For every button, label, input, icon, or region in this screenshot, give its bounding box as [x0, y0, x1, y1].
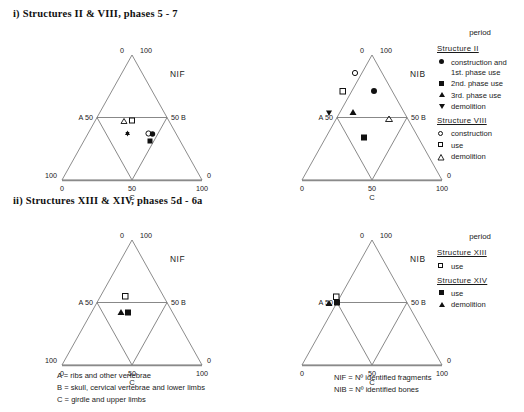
- caption-line: C = girdle and upper limbs: [57, 394, 205, 406]
- filled-triangle-up-icon: [437, 91, 451, 100]
- label-left-corner: 100: [45, 171, 57, 180]
- point-filled-square: [361, 135, 367, 141]
- caption-line: A = ribs and other vertebrae: [57, 370, 205, 382]
- label-apex-right: 100: [140, 46, 152, 55]
- label-left-mid: A 50: [319, 113, 333, 122]
- label-measure-nib: NIB: [410, 254, 425, 264]
- label-apex-left: 0: [360, 231, 364, 240]
- label-right-mid: 50 B: [411, 298, 426, 307]
- open-square-icon: [437, 141, 451, 150]
- label-right-mid: 50 B: [411, 113, 426, 122]
- legend-item: use: [437, 141, 523, 151]
- legend-item: construction and1st. phase use: [437, 58, 523, 78]
- filled-square-icon: [437, 289, 451, 298]
- label-right-corner: 0: [207, 171, 211, 180]
- point-open-square: [340, 89, 346, 95]
- label-measure-nif: NIF: [170, 254, 185, 264]
- point-filled-triangle-up: [125, 131, 130, 136]
- midline-left: [337, 118, 372, 181]
- legend-group-heading-structure-ii: Structure II: [437, 44, 523, 54]
- legend-item: demolition: [437, 300, 523, 310]
- label-bottom-right: 100: [196, 184, 208, 193]
- legend-panel-i: period Structure II construction and1st.…: [437, 28, 523, 164]
- panel-ii-title: ii) Structures XIII & XIV, phases 5d - 6…: [13, 195, 203, 206]
- point-filled-circle: [371, 88, 377, 94]
- midline-right: [132, 303, 167, 366]
- legend-label: demolition: [451, 300, 523, 310]
- label-left-mid: A 50: [79, 113, 93, 122]
- midline-right: [372, 303, 407, 366]
- label-left-corner: 100: [45, 356, 57, 365]
- legend-panel-ii: period Structure XIII use Structure XIV …: [437, 232, 523, 312]
- label-bottom-mid: 50: [368, 184, 376, 193]
- legend-label: construction: [451, 129, 523, 139]
- caption-left: A = ribs and other vertebrae B = skull, …: [57, 370, 205, 405]
- label-bottom-mid: 50: [128, 184, 136, 193]
- label-right-corner: 0: [447, 356, 451, 365]
- legend-label: 3rd. phase use: [451, 91, 523, 101]
- filled-triangle-up-icon: [437, 300, 451, 309]
- label-right-corner: 0: [447, 171, 451, 180]
- label-bottom-left: 0: [60, 184, 64, 193]
- open-circle-icon: [437, 129, 451, 138]
- label-apex-left: 0: [360, 46, 364, 55]
- data-points: [121, 118, 155, 144]
- caption-line: NIF = Nº identified fragments: [334, 372, 432, 384]
- legend-item: use: [437, 262, 523, 272]
- label-bottom-left: 0: [300, 184, 304, 193]
- legend-group-heading-structure-viii: Structure VIII: [437, 116, 523, 126]
- midline-left: [97, 118, 132, 181]
- legend-label: 2nd. phase use: [451, 79, 523, 89]
- filled-square-icon: [437, 79, 451, 88]
- caption-line: B = skull, cervical vertebrae and lower …: [57, 382, 205, 394]
- legend-label: construction and1st. phase use: [451, 58, 523, 78]
- caption-line: NIB = Nº identified bones: [334, 384, 432, 396]
- label-left-mid: A 50: [79, 298, 93, 307]
- legend-label: demolition: [451, 102, 523, 112]
- filled-circle-icon: [437, 58, 451, 67]
- legend-label: use: [451, 289, 523, 299]
- point-open-square: [130, 118, 135, 123]
- point-open-square: [123, 294, 129, 300]
- legend-item: 3rd. phase use: [437, 91, 523, 101]
- legend-item: demolition: [437, 152, 523, 162]
- point-filled-square: [125, 310, 131, 316]
- label-bottom-left: 0: [300, 369, 304, 378]
- point-filled-square: [334, 300, 340, 306]
- legend-item: use: [437, 289, 523, 299]
- panel-i-title: i) Structures II & VIII, phases 5 - 7: [13, 8, 178, 19]
- label-right-mid: 50 B: [171, 113, 186, 122]
- label-right-mid: 50 B: [171, 298, 186, 307]
- legend-label: use: [451, 262, 523, 272]
- point-filled-circle: [150, 131, 155, 136]
- data-points: [118, 294, 132, 316]
- legend-group-heading-structure-xiv: Structure XIV: [437, 276, 523, 286]
- label-apex-right: 100: [380, 231, 392, 240]
- legend-label: demolition: [451, 152, 523, 162]
- label-apex-right: 100: [140, 231, 152, 240]
- legend-item: construction: [437, 129, 523, 139]
- label-apex-right: 100: [380, 46, 392, 55]
- label-apex-left: 0: [120, 46, 124, 55]
- ternary-chart-top-left: 0 100 A 50 50 B 100 0 0 50 100 C NIF: [0, 22, 250, 182]
- point-open-triangle-up: [386, 116, 393, 122]
- legend-item: 2nd. phase use: [437, 79, 523, 89]
- ternary-svg-bottom-left: 0 100 A 50 50 B 100 0 0 50 100 C NIF: [0, 212, 250, 372]
- legend-item: demolition: [437, 102, 523, 112]
- legend-title: period: [437, 232, 523, 242]
- data-points: [326, 70, 393, 140]
- label-measure-nib: NIB: [410, 69, 425, 79]
- midline-left: [337, 303, 372, 366]
- point-open-circle: [352, 70, 357, 75]
- label-measure-nif: NIF: [170, 69, 185, 79]
- label-axis-c: C: [369, 193, 375, 202]
- legend-group-heading-structure-xiii: Structure XIII: [437, 248, 523, 258]
- open-square-icon: [437, 262, 451, 271]
- legend-label: use: [451, 141, 523, 151]
- point-filled-triangle-up: [350, 109, 357, 115]
- open-triangle-up-icon: [437, 152, 451, 161]
- label-right-corner: 0: [207, 356, 211, 365]
- filled-triangle-down-icon: [437, 102, 451, 111]
- point-open-square: [334, 294, 340, 300]
- label-bottom-right: 100: [436, 184, 448, 193]
